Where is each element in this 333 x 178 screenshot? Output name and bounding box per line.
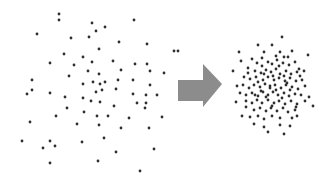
cluster-point (279, 73, 282, 76)
scattered-point (95, 91, 98, 94)
cluster-point (254, 94, 257, 97)
scattered-point (49, 140, 52, 143)
scattered-point (95, 30, 98, 33)
scattered-point (98, 73, 101, 76)
scattered-point (64, 96, 67, 99)
cluster-point (284, 80, 287, 83)
cluster-point (243, 76, 246, 79)
cluster-point (273, 79, 276, 82)
cluster-point (248, 87, 251, 90)
scattered-point (58, 13, 61, 16)
cluster-point (253, 84, 256, 87)
scattered-point (82, 83, 85, 86)
cluster-point (265, 96, 268, 99)
cluster-point (296, 71, 299, 74)
cluster-point (274, 84, 277, 87)
cluster-point (265, 110, 268, 113)
scattered-point (145, 102, 148, 105)
cluster-point (304, 100, 307, 103)
scattered-point (81, 141, 84, 144)
cluster-point (295, 80, 298, 83)
cluster-point (259, 107, 262, 110)
scattered-points-group (21, 13, 180, 173)
cluster-point (247, 67, 250, 70)
cluster-point (275, 68, 278, 71)
scattered-point (149, 70, 152, 73)
cluster-point (281, 97, 284, 100)
scattered-point (26, 93, 29, 96)
scattered-point (136, 102, 139, 105)
cluster-point (312, 105, 315, 108)
cluster-point (257, 81, 260, 84)
cluster-point (290, 73, 293, 76)
scattered-point (146, 63, 149, 66)
cluster-point (263, 51, 266, 54)
cluster-point (273, 102, 276, 105)
scattered-point (91, 22, 94, 25)
cluster-point (277, 94, 280, 97)
cluster-point (262, 79, 265, 82)
scattered-point (99, 83, 102, 86)
scattered-point (153, 148, 156, 151)
cluster-point (241, 115, 244, 118)
cluster-point (260, 90, 263, 93)
scattered-point (177, 50, 180, 53)
cluster-point (294, 61, 297, 64)
cluster-point (282, 107, 285, 110)
scattered-point (156, 94, 159, 97)
scattered-point (97, 160, 100, 163)
scattered-point (96, 115, 99, 118)
cluster-point (296, 115, 299, 118)
scattered-point (63, 53, 66, 56)
scattered-point (134, 63, 137, 66)
cluster-point (276, 59, 279, 62)
scattered-point (132, 93, 135, 96)
cluster-point (254, 70, 257, 73)
cluster-point (271, 115, 274, 118)
scattered-point (107, 115, 110, 118)
scattered-point (163, 72, 166, 75)
cluster-point (303, 70, 306, 73)
cluster-point (251, 92, 254, 95)
cluster-point (272, 75, 275, 78)
cluster-point (283, 56, 286, 59)
scattered-point (144, 107, 147, 110)
cluster-point (261, 65, 264, 68)
cluster-point (286, 82, 289, 85)
cluster-point (270, 71, 273, 74)
scattered-point (29, 121, 32, 124)
cluster-point (278, 100, 281, 103)
cluster-point (299, 75, 302, 78)
cluster-point (269, 87, 272, 90)
scattered-point (87, 70, 90, 73)
cluster-point (284, 103, 287, 106)
scattered-point (120, 127, 123, 130)
cluster-point (257, 95, 260, 98)
cluster-point (297, 88, 300, 91)
scattered-point (49, 62, 52, 65)
scattered-point (148, 127, 151, 130)
scattered-point (139, 170, 142, 173)
cluster-point (251, 58, 254, 61)
scattered-point (103, 137, 106, 140)
scattered-point (133, 19, 136, 22)
cluster-point (232, 70, 235, 73)
cluster-point (264, 83, 267, 86)
scattered-point (21, 140, 24, 143)
cluster-point (255, 76, 258, 79)
cluster-point (287, 56, 290, 59)
scattered-point (113, 105, 116, 108)
cluster-point (294, 93, 297, 96)
scattered-point (90, 100, 93, 103)
cluster-point (271, 63, 274, 66)
scattered-point (128, 117, 131, 120)
cluster-point (267, 61, 270, 64)
cluster-point (257, 44, 260, 47)
cluster-point (285, 70, 288, 73)
cluster-point (263, 126, 266, 129)
cluster-point (263, 73, 266, 76)
cluster-point (291, 86, 294, 89)
scattered-point (115, 88, 118, 91)
scattered-point (82, 56, 85, 59)
scattered-point (58, 19, 61, 22)
